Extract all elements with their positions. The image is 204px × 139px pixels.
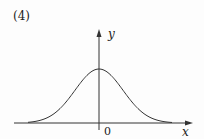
y-axis-label: y [108,28,115,40]
y-axis-arrow-icon [97,29,102,37]
graph-canvas [0,0,204,139]
x-axis-label: x [182,126,189,138]
bell-curve [28,69,172,122]
diagram: (4) y x 0 [0,0,204,139]
figure-label: (4) [13,10,30,22]
origin-label: 0 [104,126,111,138]
